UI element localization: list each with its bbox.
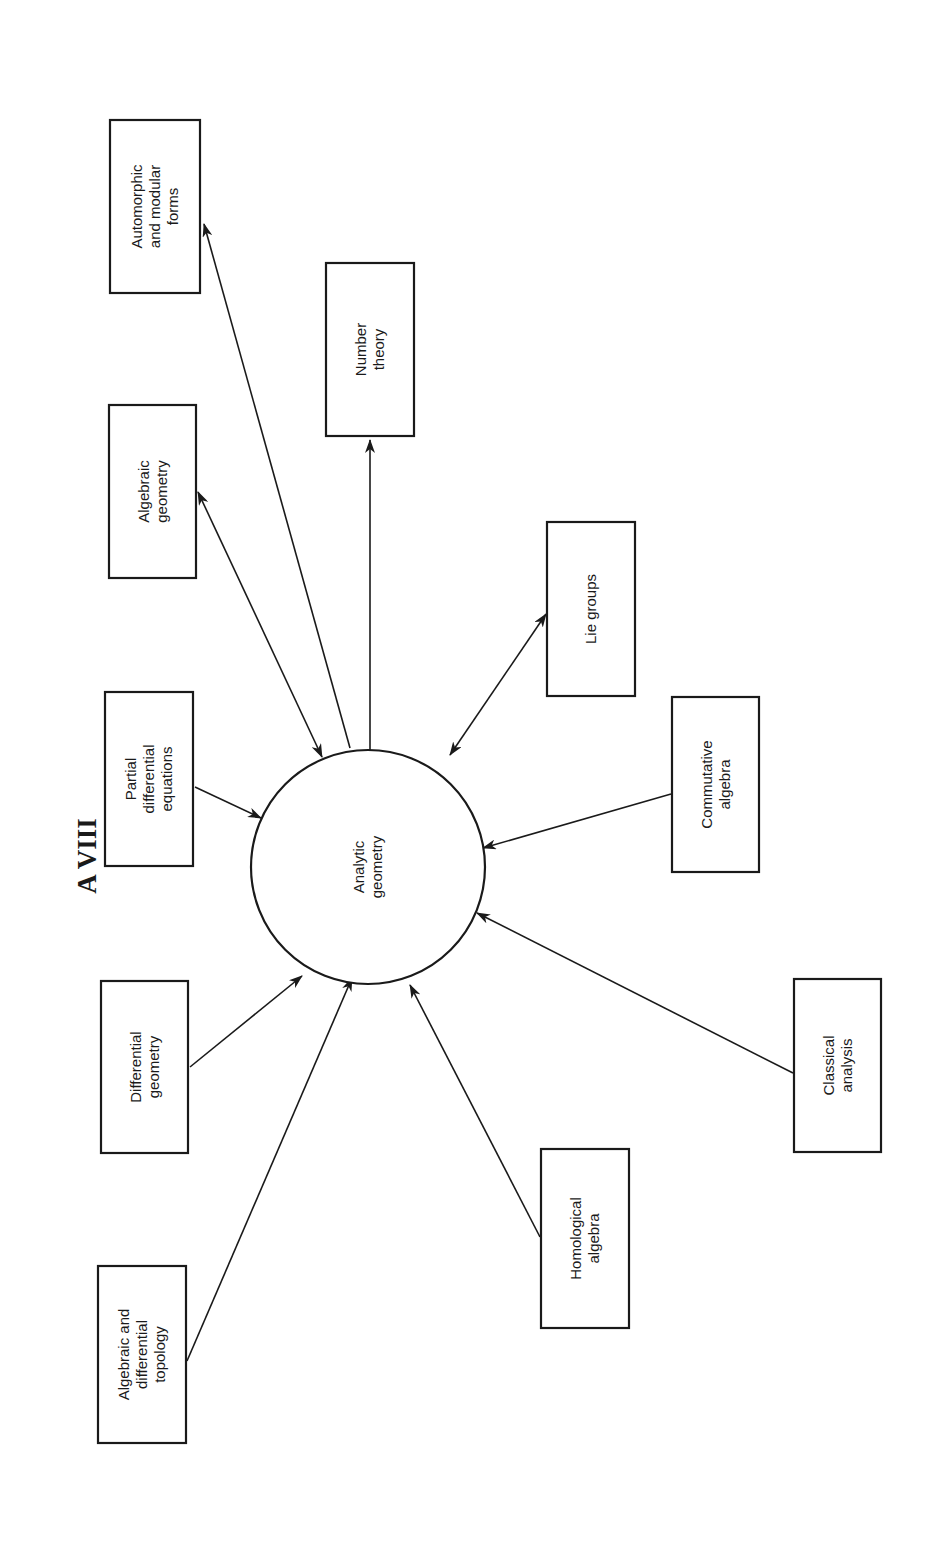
node-algebraic-and-differential-topology: Algebraic anddifferentialtopology (98, 1266, 186, 1443)
label-line: geometry (153, 460, 170, 523)
label-line: algebra (585, 1213, 602, 1264)
edge-commutative-algebra (483, 794, 671, 848)
node-classical-analysis: Classicalanalysis (794, 979, 881, 1152)
node-label: Classicalanalysis (820, 1035, 855, 1095)
label-line: Partial (122, 758, 139, 801)
label-line: geometry (368, 835, 385, 898)
edge-differential-geometry (190, 976, 302, 1067)
label-line: Algebraic (135, 460, 152, 523)
label-line: equations (158, 746, 175, 811)
figure-title: A VIII (72, 818, 102, 893)
label-line: and modular (146, 165, 163, 248)
label-line: Number (352, 323, 369, 376)
node-differential-geometry: Differentialgeometry (101, 981, 188, 1153)
label-line: Analytic (350, 840, 367, 893)
node-lie-groups: Lie groups (547, 522, 635, 696)
node-algebraic-geometry: Algebraicgeometry (109, 405, 196, 578)
label-line: differential (133, 1320, 150, 1389)
edge-homological-algebra (410, 985, 540, 1237)
label-line: Algebraic and (115, 1309, 132, 1401)
node-commutative-algebra: Commutativealgebra (672, 697, 759, 872)
label-line: Homological (567, 1197, 584, 1280)
edge-algebraic-geometry (198, 492, 322, 757)
label-line: forms (164, 188, 181, 226)
center-node-analytic-geometry: Analyticgeometry (251, 750, 485, 984)
label-line: Lie groups (582, 574, 599, 644)
node-label: Lie groups (582, 574, 599, 644)
label-line: geometry (145, 1035, 162, 1098)
node-number-theory: Numbertheory (326, 263, 414, 436)
edge-algebraic-and-differential-topology (187, 978, 352, 1361)
label-line: Automorphic (128, 164, 145, 249)
edge-partial-differential-equations (195, 787, 261, 818)
edge-classical-analysis (477, 913, 793, 1073)
node-label: Algebraicgeometry (135, 460, 170, 523)
diagram-canvas: Analyticgeometry Automorphicand modularf… (0, 0, 936, 1558)
node-label: Differentialgeometry (127, 1031, 162, 1102)
nodes-layer: Automorphicand modularformsNumbertheoryA… (98, 120, 881, 1443)
node-automorphic-and-modular-forms: Automorphicand modularforms (110, 120, 200, 293)
label-line: Classical (820, 1035, 837, 1095)
label-line: topology (151, 1326, 168, 1383)
node-homological-algebra: Homologicalalgebra (541, 1149, 629, 1328)
node-label: Numbertheory (352, 323, 387, 376)
edge-lie-groups (450, 614, 546, 755)
label-line: Differential (127, 1031, 144, 1102)
label-line: theory (370, 328, 387, 370)
label-line: differential (140, 745, 157, 814)
node-partial-differential-equations: Partialdifferentialequations (105, 692, 193, 866)
center-label: Analyticgeometry (350, 835, 385, 898)
label-line: algebra (716, 759, 733, 810)
label-line: analysis (838, 1038, 855, 1092)
label-line: Commutative (698, 740, 715, 828)
